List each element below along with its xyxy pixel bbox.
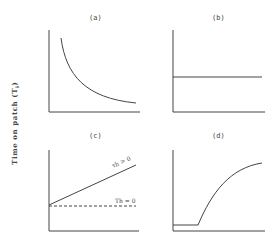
panel-d: [173, 150, 265, 231]
panel-a: [49, 30, 140, 112]
annotation-th-zero: Th = 0: [115, 197, 136, 204]
annotation-tau-positive: τh > 0: [111, 154, 132, 169]
panel-d-curve: [173, 163, 262, 225]
panel-b: [173, 30, 265, 112]
figure-canvas: τh > 0 Th = 0: [0, 0, 276, 250]
panel-a-curve: [61, 38, 136, 103]
